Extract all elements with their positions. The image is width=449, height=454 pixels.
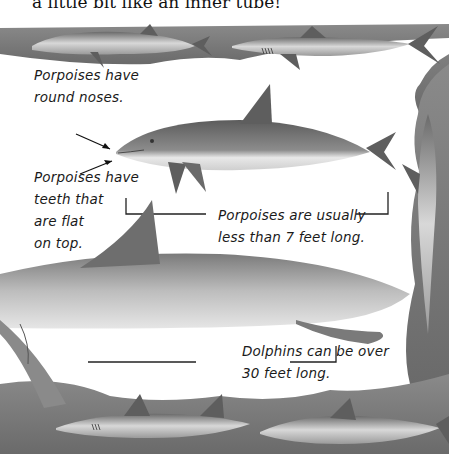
label-round-noses: Porpoises have round noses. [34,64,139,108]
label-dolphin-length: Dolphins can be over 30 feet long. [242,340,389,384]
illustration-scene: Porpoises have round noses. Porpoises ha… [0,24,449,454]
intro-text: a little bit like an inner tube! [32,0,281,12]
label-porpoise-length: Porpoises are usually less than 7 feet l… [218,204,366,248]
label-flat-teeth: Porpoises have teeth that are flat on to… [34,166,139,254]
porpoise [116,84,396,194]
border-bottom [0,374,449,454]
